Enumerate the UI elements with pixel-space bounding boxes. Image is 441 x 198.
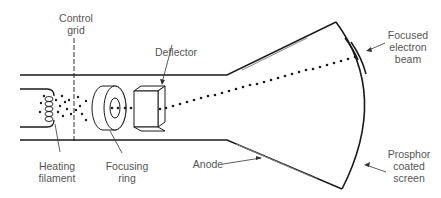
label-focused-beam: Focused electron beam (383, 29, 433, 65)
heating-filament-icon (45, 97, 53, 122)
label-anode: Anode (190, 158, 226, 170)
anode-plates (236, 38, 317, 179)
label-focusing-ring: Focusing ring (104, 160, 150, 184)
label-control-grid: Control grid (56, 12, 96, 36)
label-heating-filament: Heating filament (34, 160, 80, 184)
label-deflector: Deflector (151, 46, 201, 58)
arrowheads (160, 47, 372, 167)
focusing-ring-icon (92, 86, 126, 130)
label-screen: Prosphor coated screen (384, 148, 434, 184)
